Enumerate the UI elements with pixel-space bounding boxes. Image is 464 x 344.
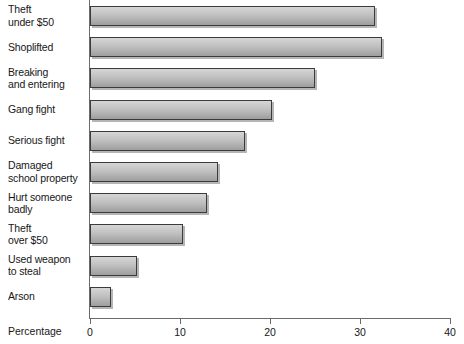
bar bbox=[90, 224, 183, 244]
x-tick-10 bbox=[180, 319, 181, 324]
category-label: Theft over $50 bbox=[8, 222, 88, 246]
x-tick-label-10: 10 bbox=[174, 326, 186, 338]
category-label: Serious fight bbox=[8, 134, 88, 146]
bar bbox=[90, 6, 375, 26]
bar bbox=[90, 37, 382, 57]
category-label: Used weapon to steal bbox=[8, 253, 88, 277]
category-label: Breaking and entering bbox=[8, 66, 88, 90]
bar bbox=[90, 131, 245, 151]
bar bbox=[90, 100, 272, 120]
x-axis-title: Percentage bbox=[8, 325, 62, 337]
x-tick-label-0: 0 bbox=[87, 326, 93, 338]
x-tick-label-20: 20 bbox=[264, 326, 276, 338]
x-tick-40 bbox=[450, 319, 451, 324]
category-label: Theft under $50 bbox=[8, 3, 88, 27]
category-label: Damaged school property bbox=[8, 159, 88, 183]
x-tick-label-40: 40 bbox=[444, 326, 456, 338]
bar bbox=[90, 287, 111, 307]
category-label: Hurt someone badly bbox=[8, 191, 88, 215]
x-tick-0 bbox=[90, 319, 91, 324]
x-tick-30 bbox=[360, 319, 361, 324]
category-label: Gang fight bbox=[8, 103, 88, 115]
bar bbox=[90, 256, 137, 276]
category-labels: Theft under $50ShopliftedBreaking and en… bbox=[0, 0, 86, 318]
bar bbox=[90, 68, 315, 88]
bar bbox=[90, 193, 207, 213]
category-label: Arson bbox=[8, 290, 88, 302]
bar bbox=[90, 162, 218, 182]
bar-chart: Theft under $50ShopliftedBreaking and en… bbox=[0, 0, 464, 344]
category-label: Shoplifted bbox=[8, 41, 88, 53]
x-tick-label-30: 30 bbox=[354, 326, 366, 338]
plot-area: 010203040 bbox=[90, 0, 450, 318]
x-tick-20 bbox=[270, 319, 271, 324]
